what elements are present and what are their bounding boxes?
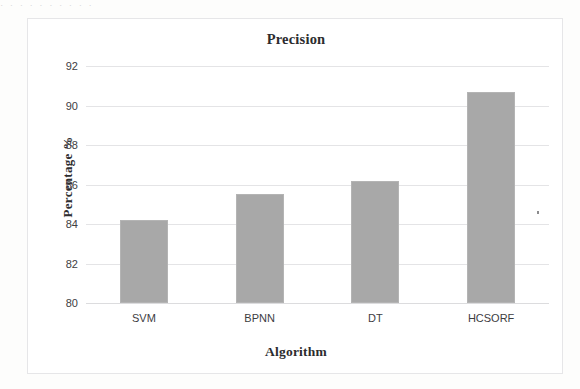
x-axis-tick-label: SVM: [132, 312, 156, 324]
scan-artifact-speck: [537, 211, 539, 214]
y-axis-tick-label: 90: [66, 100, 78, 112]
y-axis-tick-label: 80: [66, 297, 78, 309]
y-axis-tick-label: 92: [66, 60, 78, 72]
bar-dt: [351, 181, 399, 303]
gridline: [86, 303, 549, 304]
chart-figure: Precision Percentage % 80828486889092SVM…: [27, 18, 563, 374]
bar-bpnn: [236, 194, 284, 303]
y-axis-tick-label: 84: [66, 218, 78, 230]
clipped-header-text: · · · · · · · · · ·: [0, 0, 580, 6]
bar-svm: [120, 220, 168, 303]
x-axis-tick-label: DT: [368, 312, 383, 324]
y-axis-tick-label: 86: [66, 179, 78, 191]
x-axis-title: Algorithm: [28, 344, 564, 360]
x-axis-tick-label: BPNN: [244, 312, 275, 324]
gridline: [86, 66, 549, 67]
chart-title: Precision: [28, 31, 564, 48]
plot-area: 80828486889092SVMBPNNDTHCSORF: [86, 66, 549, 303]
y-axis-tick-label: 82: [66, 258, 78, 270]
bar-hcsorf: [467, 92, 515, 303]
y-axis-tick-label: 88: [66, 139, 78, 151]
x-axis-tick-label: HCSORF: [468, 312, 514, 324]
